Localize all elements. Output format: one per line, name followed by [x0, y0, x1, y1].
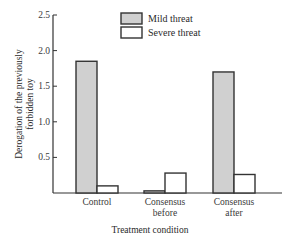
y-axis-title: Derogation of the previouslyforbidden to… — [14, 49, 35, 159]
y-tick-label: 2.0 — [38, 46, 50, 56]
category-labels: ControlConsensusbeforeConsensusafter — [82, 197, 254, 218]
bar-mild-threat — [76, 61, 97, 193]
y-axis-title-line: Derogation of the previously — [14, 49, 24, 159]
y-tick-label: 1.0 — [38, 117, 50, 127]
x-category-label: Consensus — [145, 197, 186, 207]
y-axis: 0.51.01.52.02.5 — [38, 10, 57, 193]
y-axis-title-line: forbidden toy — [25, 78, 35, 130]
x-axis-title: Treatment condition — [112, 225, 189, 235]
bar-severe-threat — [97, 186, 118, 193]
legend-label: Mild threat — [148, 13, 193, 24]
bar-chart: 0.51.01.52.02.5 ControlConsensusbeforeCo… — [0, 0, 285, 241]
bar-mild-threat — [144, 191, 165, 193]
bar-severe-threat — [234, 174, 255, 193]
bars — [76, 61, 255, 193]
x-category-label: after — [225, 208, 243, 218]
bar-severe-threat — [165, 173, 186, 193]
y-tick-label: 1.5 — [38, 81, 50, 91]
y-tick-label: 0.5 — [38, 152, 50, 162]
bar-mild-threat — [213, 72, 234, 193]
legend-swatch — [121, 13, 142, 24]
x-category-label: Control — [82, 197, 111, 207]
legend-swatch — [121, 27, 142, 38]
x-category-label: Consensus — [214, 197, 255, 207]
x-category-label: before — [153, 208, 177, 218]
legend-label: Severe threat — [148, 27, 201, 38]
legend: Mild threatSevere threat — [121, 13, 201, 38]
y-tick-label: 2.5 — [38, 10, 50, 20]
